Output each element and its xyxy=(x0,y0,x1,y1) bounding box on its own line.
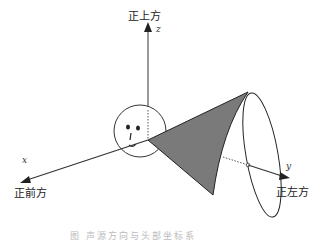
axis-label-y: y xyxy=(286,161,291,171)
label-left: 正左方 xyxy=(276,183,309,199)
eye-left-icon xyxy=(126,125,130,130)
y-axis-hidden xyxy=(223,157,248,165)
axis-label-z: z xyxy=(156,24,161,34)
cone-surface xyxy=(148,92,248,195)
y-arrowhead-icon xyxy=(279,172,290,180)
label-up: 正上方 xyxy=(128,7,161,23)
eye-right-icon xyxy=(136,126,140,131)
x-axis xyxy=(24,140,148,181)
axis-label-x: x xyxy=(22,155,27,165)
cone-head-diagram xyxy=(0,0,315,243)
figure-caption: 图 声源方向与头部坐标系 xyxy=(70,229,196,242)
label-front: 正前方 xyxy=(14,184,47,200)
z-arrowhead-icon xyxy=(144,22,152,32)
cone-base-ellipse xyxy=(235,90,288,220)
x-arrowhead-icon xyxy=(20,176,31,183)
